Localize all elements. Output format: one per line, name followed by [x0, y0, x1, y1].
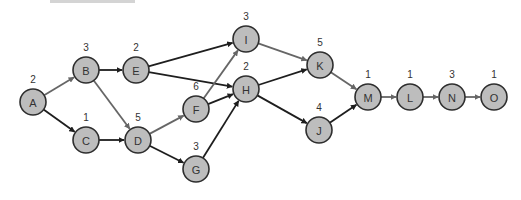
node-c: C1	[73, 112, 99, 153]
node-label: M	[363, 92, 372, 104]
edge-i-to-k	[258, 43, 307, 60]
edge-d-to-f	[149, 116, 183, 134]
node-label: O	[490, 92, 499, 104]
node-label: A	[29, 97, 37, 109]
node-o: O1	[481, 69, 507, 110]
node-label: B	[82, 65, 89, 77]
edge-j-to-m	[330, 105, 357, 123]
node-duration: 3	[193, 141, 199, 152]
node-duration: 2	[243, 61, 249, 72]
node-i: I3	[233, 11, 259, 52]
edge-a-to-c	[44, 110, 75, 132]
node-label: K	[316, 60, 324, 72]
node-l: L1	[397, 69, 423, 110]
node-duration: 4	[316, 102, 322, 113]
edge-d-to-g	[150, 146, 184, 163]
node-g: G3	[183, 141, 209, 182]
node-duration: 1	[491, 69, 497, 80]
node-a: A2	[20, 74, 46, 115]
edge-a-to-b	[44, 77, 74, 95]
node-label: N	[448, 92, 456, 104]
node-duration: 5	[317, 37, 323, 48]
node-h: H2	[233, 61, 259, 102]
node-label: D	[134, 135, 142, 147]
node-d: D5	[125, 112, 151, 153]
node-duration: 3	[449, 69, 455, 80]
network-diagram: A2B3C1D5E2F6G3H2I3J4K5M1L1N3O1	[0, 0, 521, 200]
node-duration: 2	[133, 42, 139, 53]
node-e: E2	[123, 42, 149, 83]
node-duration: 1	[407, 69, 413, 80]
edge-k-to-m	[331, 72, 357, 89]
node-label: H	[242, 84, 250, 96]
node-duration: 5	[135, 112, 141, 123]
edge-e-to-i	[149, 43, 233, 67]
node-label: E	[132, 65, 139, 77]
edge-b-to-d	[94, 80, 130, 128]
node-label: C	[82, 135, 90, 147]
node-duration: 2	[30, 74, 36, 85]
node-duration: 3	[83, 42, 89, 53]
node-n: N3	[439, 69, 465, 110]
node-j: J4	[306, 102, 332, 143]
node-label: F	[193, 104, 200, 116]
node-label: J	[316, 125, 322, 137]
node-duration: 1	[365, 69, 371, 80]
node-k: K5	[307, 37, 333, 78]
node-label: G	[192, 164, 201, 176]
edge-h-to-j	[257, 95, 306, 123]
node-label: I	[244, 34, 247, 46]
node-duration: 3	[243, 11, 249, 22]
node-label: L	[407, 92, 413, 104]
node-duration: 1	[83, 112, 89, 123]
node-m: M1	[355, 69, 381, 110]
node-b: B3	[73, 42, 99, 83]
node-duration: 6	[193, 81, 199, 92]
edge-f-to-h	[208, 94, 233, 104]
edge-h-to-k	[258, 69, 306, 85]
node-f: F6	[183, 81, 209, 122]
